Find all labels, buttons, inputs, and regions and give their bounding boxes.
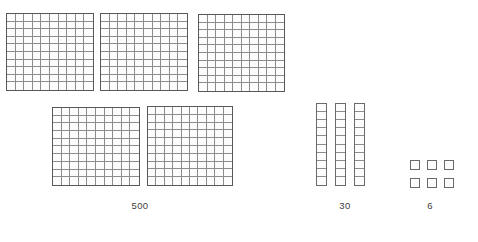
block-cell <box>215 138 223 146</box>
block-cell <box>148 146 156 154</box>
block-cell <box>118 52 127 60</box>
block-cell <box>101 82 110 90</box>
block-cell <box>208 61 217 69</box>
block-cell <box>190 162 198 170</box>
block-cell <box>144 60 153 68</box>
block-cell <box>101 37 110 45</box>
one-unit-3 <box>444 160 454 170</box>
block-cell <box>267 83 276 91</box>
block-cell <box>67 82 76 90</box>
block-cell <box>225 68 234 76</box>
block-cell <box>96 146 105 154</box>
block-cell <box>225 23 234 31</box>
block-cell <box>87 108 96 116</box>
block-cell <box>267 45 276 53</box>
block-cell <box>224 138 232 146</box>
block-cell <box>96 177 105 185</box>
block-cell <box>70 108 79 116</box>
block-cell <box>59 75 68 83</box>
block-cell <box>267 15 276 23</box>
block-cell <box>170 44 179 52</box>
block-cell <box>135 52 144 60</box>
block-cell <box>153 29 162 37</box>
block-cell <box>148 177 156 185</box>
block-cell <box>233 68 242 76</box>
block-cell <box>165 138 173 146</box>
block-cell <box>161 52 170 60</box>
block-cell <box>67 67 76 75</box>
block-cell <box>96 139 105 147</box>
block-cell <box>165 169 173 177</box>
block-cell <box>153 75 162 83</box>
block-cell <box>317 161 326 169</box>
block-cell <box>208 45 217 53</box>
block-cell <box>50 44 59 52</box>
block-cell <box>170 67 179 75</box>
block-cell <box>33 44 42 52</box>
one-unit-6 <box>444 178 454 188</box>
block-cell <box>199 76 208 84</box>
block-cell <box>96 108 105 116</box>
block-cell <box>259 30 268 38</box>
block-cell <box>70 131 79 139</box>
block-cell <box>207 115 215 123</box>
block-cell <box>67 14 76 22</box>
block-cell <box>182 162 190 170</box>
block-cell <box>173 162 181 170</box>
block-cell <box>156 169 164 177</box>
block-cell <box>153 60 162 68</box>
block-cell <box>207 154 215 162</box>
block-cell <box>165 107 173 115</box>
block-cell <box>224 177 232 185</box>
base-ten-blocks-worksheet: Draw quick pictures to represent 536. 50… <box>0 0 478 242</box>
block-cell <box>317 104 326 112</box>
block-cell <box>41 29 50 37</box>
block-cell <box>242 83 251 91</box>
block-cell <box>199 15 208 23</box>
block-cell <box>198 123 206 131</box>
block-cell <box>173 107 181 115</box>
block-cell <box>33 14 42 22</box>
block-cell <box>118 37 127 45</box>
block-cell <box>59 60 68 68</box>
group-label-hundreds: 500 <box>131 200 148 211</box>
block-cell <box>41 22 50 30</box>
block-cell <box>165 154 173 162</box>
block-cell <box>113 170 122 178</box>
block-cell <box>70 162 79 170</box>
block-cell <box>355 120 364 128</box>
block-cell <box>87 123 96 131</box>
block-cell <box>59 67 68 75</box>
block-cell <box>224 130 232 138</box>
block-cell <box>259 38 268 46</box>
block-cell <box>148 130 156 138</box>
block-cell <box>7 37 16 45</box>
block-cell <box>24 14 33 22</box>
block-cell <box>62 139 71 147</box>
block-cell <box>199 38 208 46</box>
block-cell <box>259 23 268 31</box>
block-cell <box>242 61 251 69</box>
block-cell <box>76 52 85 60</box>
block-cell <box>170 14 179 22</box>
block-cell <box>50 37 59 45</box>
block-cell <box>208 53 217 61</box>
block-cell <box>135 44 144 52</box>
block-cell <box>233 30 242 38</box>
block-cell <box>198 169 206 177</box>
block-cell <box>135 22 144 30</box>
block-cell <box>259 53 268 61</box>
block-cell <box>16 52 25 60</box>
block-cell <box>87 154 96 162</box>
group-label-tens: 30 <box>339 200 350 211</box>
block-cell <box>173 154 181 162</box>
block-cell <box>317 112 326 120</box>
block-cell <box>317 136 326 144</box>
block-cell <box>225 30 234 38</box>
block-cell <box>276 38 285 46</box>
block-cell <box>33 82 42 90</box>
block-cell <box>135 60 144 68</box>
block-cell <box>41 60 50 68</box>
block-cell <box>198 107 206 115</box>
block-cell <box>259 61 268 69</box>
